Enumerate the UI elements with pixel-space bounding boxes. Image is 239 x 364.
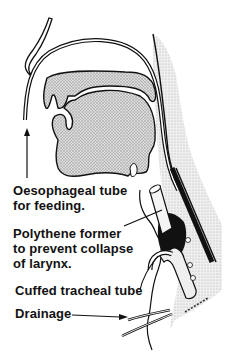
- nose-outline: [25, 18, 52, 75]
- label-cuffed-tracheal-tube: Cuffed tracheal tube: [15, 283, 143, 298]
- label-drainage: Drainage: [15, 306, 71, 321]
- arrow-head-icon: [119, 314, 128, 320]
- label-polythene-former: Polythene former to prevent collapse of …: [13, 226, 133, 271]
- arrow-head-icon: [24, 128, 30, 136]
- drainage-leader: [72, 315, 120, 317]
- tongue-tissue: [52, 90, 155, 176]
- label-oesophageal-tube: Oesophageal tube for feeding.: [13, 183, 127, 213]
- epiglottis: [130, 164, 137, 177]
